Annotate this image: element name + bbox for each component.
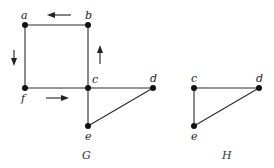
graph-h: c d e H [191, 72, 263, 162]
node-label-d: d [256, 72, 263, 85]
node-c [191, 85, 197, 91]
graph-label-h: H [221, 149, 232, 162]
edge-d-e [88, 88, 153, 126]
arrow-left-icon [47, 12, 71, 18]
node-b [85, 22, 91, 28]
graph-g: a b c d e f G [11, 9, 157, 162]
node-f [22, 85, 28, 91]
arrow-up-icon [97, 45, 103, 64]
node-label-c: c [92, 73, 98, 86]
node-label-a: a [21, 9, 28, 22]
graph-diagram: a b c d e f G c d e H [0, 0, 274, 168]
node-label-b: b [85, 9, 92, 22]
node-label-e: e [85, 130, 92, 143]
node-label-e: e [191, 130, 198, 143]
node-label-d: d [150, 72, 157, 85]
arrow-right-icon [46, 95, 69, 101]
node-d [256, 85, 262, 91]
arrow-down-icon [11, 50, 17, 66]
graph-label-g: G [82, 149, 91, 162]
node-label-c: c [191, 72, 197, 85]
node-a [22, 22, 28, 28]
node-e [191, 123, 197, 129]
edge-d-e [194, 88, 259, 126]
node-c [85, 85, 91, 91]
node-e [85, 123, 91, 129]
node-label-f: f [20, 92, 27, 105]
node-d [150, 85, 156, 91]
